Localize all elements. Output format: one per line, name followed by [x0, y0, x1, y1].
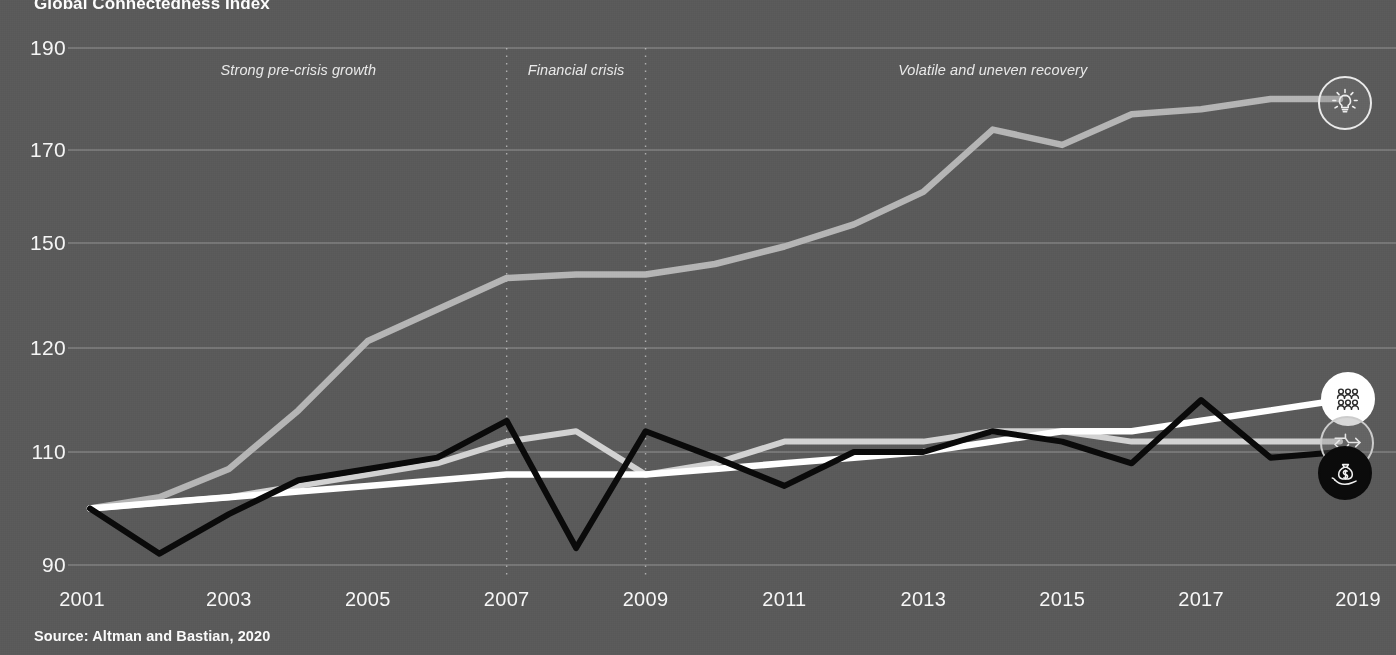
capital-marker[interactable] [1318, 446, 1372, 500]
lightbulb-icon [1318, 76, 1372, 130]
x-axis-tick: 2019 [1335, 588, 1381, 611]
x-axis-tick: 2009 [623, 588, 669, 611]
y-axis-labels: 19017015012011090 [0, 0, 66, 655]
money-bag-icon [1318, 446, 1372, 500]
x-axis-tick: 2007 [484, 588, 530, 611]
period-annotation: Financial crisis [528, 62, 625, 78]
x-axis-tick: 2011 [762, 588, 806, 611]
x-axis-labels: 2001200320052007200920112013201520172019 [0, 588, 1396, 618]
y-axis-tick: 120 [30, 336, 66, 360]
x-axis-tick: 2017 [1178, 588, 1224, 611]
x-axis-tick: 2015 [1039, 588, 1085, 611]
y-axis-tick: 190 [30, 36, 66, 60]
x-axis-tick: 2001 [59, 588, 105, 611]
x-axis-tick: 2005 [345, 588, 391, 611]
period-annotation: Volatile and uneven recovery [898, 62, 1087, 78]
information-marker[interactable] [1318, 76, 1372, 130]
source-note: Source: Altman and Bastian, 2020 [34, 628, 270, 644]
x-axis-tick: 2013 [900, 588, 946, 611]
line-chart-plot [0, 0, 1396, 655]
y-axis-tick: 110 [32, 440, 66, 464]
series-line-capital [90, 400, 1340, 554]
y-axis-tick: 150 [30, 231, 66, 255]
x-axis-tick: 2003 [206, 588, 252, 611]
period-annotation: Strong pre-crisis growth [221, 62, 377, 78]
y-axis-tick: 170 [30, 138, 66, 162]
page-title: Global Connectedness Index [34, 0, 270, 14]
y-axis-tick: 90 [42, 553, 66, 577]
